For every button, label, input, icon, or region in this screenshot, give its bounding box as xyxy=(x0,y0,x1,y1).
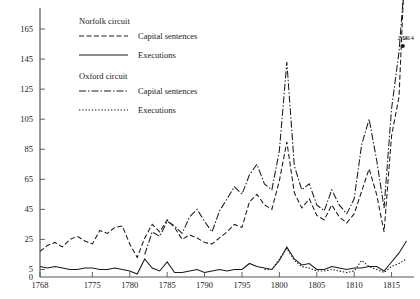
x-tick-label: 1815 xyxy=(383,280,400,290)
x-tick-label: 1790 xyxy=(196,280,213,290)
annotation-group: 234214 xyxy=(398,34,415,48)
x-tick-label: 1800 xyxy=(271,280,288,290)
y-tick-label: 45 xyxy=(25,204,34,214)
y-axis: 0525456585105125145165 xyxy=(20,8,45,282)
y-tick-label: 25 xyxy=(25,234,34,244)
legend-group-title: Norfolk circuit xyxy=(79,16,130,26)
legend-entry-label: Capital sentences xyxy=(138,86,197,96)
legend-group-title: Oxford circuit xyxy=(79,71,128,81)
legend-entry-label: Executions xyxy=(138,50,176,60)
y-tick-label: 65 xyxy=(25,174,34,184)
y-tick-label: 145 xyxy=(20,54,33,64)
series-line-norfolk-executions xyxy=(40,241,407,274)
y-tick-group: 0525456585105125145165 xyxy=(20,24,45,282)
x-tick-label: 1795 xyxy=(233,280,250,290)
x-tick-label: 1775 xyxy=(84,280,101,290)
legend-entry-label: Executions xyxy=(138,105,176,115)
y-tick-label: 125 xyxy=(20,84,33,94)
x-tick-label: 1805 xyxy=(308,280,325,290)
x-tick-label: 1768 xyxy=(32,280,49,290)
chart-container: 0525456585105125145165 17681775178017851… xyxy=(0,0,420,299)
chart-legend: Norfolk circuitCapital sentencesExecutio… xyxy=(79,16,197,115)
x-tick-label: 1785 xyxy=(159,280,176,290)
series-line-norfolk-capital-sentences xyxy=(40,0,407,257)
y-tick-label: 85 xyxy=(25,144,34,154)
annotation-value-label: 214 xyxy=(404,34,415,42)
y-tick-label: 165 xyxy=(20,24,33,34)
data-series-group xyxy=(40,0,407,274)
x-tick-label: 1810 xyxy=(346,280,363,290)
x-tick-label: 1780 xyxy=(121,280,138,290)
x-tick-group: 1768177517801785179017951800180518101815 xyxy=(32,272,401,290)
y-tick-label: 105 xyxy=(20,114,33,124)
x-axis: 1768177517801785179017951800180518101815 xyxy=(32,272,415,290)
legend-entry-label: Capital sentences xyxy=(138,31,197,41)
line-chart: 0525456585105125145165 17681775178017851… xyxy=(0,0,420,299)
annotation-marker-dot xyxy=(401,44,405,48)
y-tick-label: 5 xyxy=(29,264,33,274)
